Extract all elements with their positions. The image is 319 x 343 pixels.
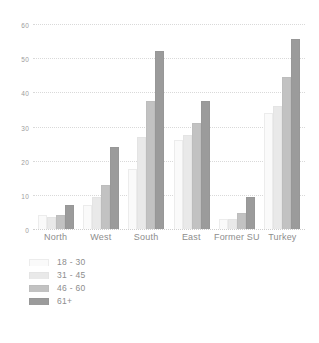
chart-legend: 18 - 3031 - 4546 - 6061+ <box>29 256 86 308</box>
bar[interactable] <box>47 217 56 229</box>
bar[interactable] <box>56 215 65 229</box>
bar[interactable] <box>237 213 246 229</box>
legend-item[interactable]: 18 - 30 <box>29 256 86 268</box>
bar[interactable] <box>228 219 237 229</box>
legend-item[interactable]: 61+ <box>29 295 86 307</box>
legend-swatch <box>29 285 49 292</box>
bar[interactable] <box>219 219 228 229</box>
x-axis-label: South <box>123 232 168 242</box>
legend-label: 61+ <box>57 296 72 306</box>
bar[interactable] <box>192 123 201 229</box>
y-axis-tick-label: 0 <box>25 227 29 234</box>
bar[interactable] <box>128 169 137 229</box>
bar[interactable] <box>146 101 155 229</box>
y-axis-tick-label: 50 <box>21 56 29 63</box>
bar[interactable] <box>264 113 273 229</box>
legend-label: 18 - 30 <box>57 257 86 267</box>
x-axis-label: East <box>169 232 214 242</box>
y-axis-tick-label: 20 <box>21 158 29 165</box>
legend-swatch <box>29 259 49 266</box>
bar[interactable] <box>38 215 47 229</box>
y-axis-tick-label: 10 <box>21 192 29 199</box>
bar-group <box>260 24 305 229</box>
x-axis-label: North <box>33 232 78 242</box>
bar-groups <box>33 24 305 229</box>
legend-item[interactable]: 46 - 60 <box>29 282 86 294</box>
bar[interactable] <box>101 185 110 229</box>
y-axis-tick-label: 60 <box>21 22 29 29</box>
bar[interactable] <box>201 101 210 229</box>
bar[interactable] <box>83 205 92 229</box>
bar-group <box>169 24 214 229</box>
bar[interactable] <box>183 135 192 229</box>
bar[interactable] <box>155 51 164 229</box>
bar-group <box>124 24 169 229</box>
legend-label: 46 - 60 <box>57 283 86 293</box>
bar[interactable] <box>110 147 119 229</box>
bar-group <box>214 24 259 229</box>
bar-group <box>33 24 78 229</box>
plot-area: 0102030405060 <box>33 24 305 229</box>
bar[interactable] <box>92 197 101 229</box>
legend-swatch <box>29 298 49 305</box>
x-axis-labels: NorthWestSouthEastFormer SUTurkey <box>33 232 305 242</box>
x-axis-label: Former SU <box>214 232 260 242</box>
bar-group <box>78 24 123 229</box>
bar[interactable] <box>137 137 146 229</box>
y-axis-tick-label: 30 <box>21 124 29 131</box>
bar[interactable] <box>282 77 291 229</box>
axis-baseline: 0 <box>33 229 305 230</box>
bar-chart: 0102030405060 NorthWestSouthEastFormer S… <box>0 0 319 343</box>
bar[interactable] <box>291 39 300 229</box>
bar[interactable] <box>174 140 183 229</box>
bar[interactable] <box>246 197 255 229</box>
y-axis-tick-label: 40 <box>21 90 29 97</box>
bar[interactable] <box>273 106 282 229</box>
legend-swatch <box>29 272 49 279</box>
x-axis-label: West <box>78 232 123 242</box>
bar[interactable] <box>65 205 74 229</box>
legend-item[interactable]: 31 - 45 <box>29 269 86 281</box>
x-axis-label: Turkey <box>260 232 305 242</box>
legend-label: 31 - 45 <box>57 270 86 280</box>
